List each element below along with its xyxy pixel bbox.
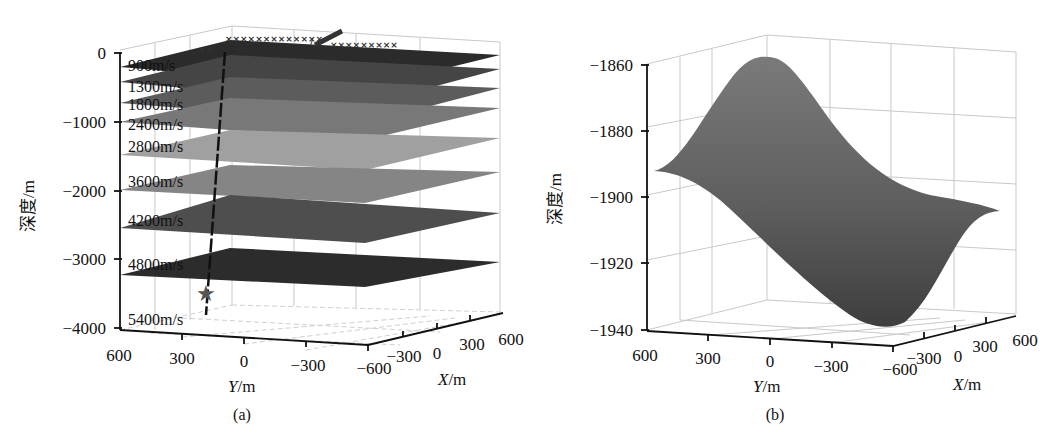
source-star-icon: ★ — [196, 281, 216, 306]
svg-text:600: 600 — [1012, 331, 1038, 350]
svg-text:5400m/s: 5400m/s — [128, 311, 183, 328]
svg-text:600: 600 — [632, 346, 658, 365]
panel-a-y-ticks: 600 300 0 −300 −600 — [106, 334, 391, 378]
svg-text:−300: −300 — [290, 356, 325, 375]
svg-text:−4000: −4000 — [62, 319, 106, 338]
svg-text:300: 300 — [972, 337, 998, 356]
svg-text:−300: −300 — [386, 347, 421, 366]
panel-a: ×× ××××××××××××× ××××××××× / ★ 0 −1000 −… — [19, 26, 524, 424]
svg-text:1800m/s: 1800m/s — [128, 96, 183, 113]
panel-a-x-ticks: −300 0 300 600 — [386, 315, 523, 366]
panel-b-z-ticks: −1860 −1880 −1900 −1920 −1940 — [589, 56, 649, 340]
svg-text:900m/s: 900m/s — [128, 57, 175, 74]
svg-text:2400m/s: 2400m/s — [128, 116, 183, 133]
panel-a-zlabel: 深度/m — [19, 180, 38, 232]
panel-a-z-ticks: 0 −1000 −2000 −3000 −4000 — [62, 44, 122, 338]
svg-text:−1880: −1880 — [589, 122, 633, 141]
svg-text:−1000: −1000 — [62, 113, 106, 132]
svg-text:−1940: −1940 — [589, 321, 633, 340]
svg-text:−300: −300 — [906, 349, 941, 368]
svg-text:××: ×× — [198, 45, 213, 55]
svg-text:300: 300 — [459, 335, 485, 354]
svg-text:−300: −300 — [813, 357, 848, 376]
svg-text:−3000: −3000 — [62, 250, 106, 269]
svg-text:−1900: −1900 — [589, 188, 633, 207]
svg-text:−1920: −1920 — [589, 254, 633, 273]
svg-text:0: 0 — [98, 44, 107, 63]
svg-text:×××××××××××××: ××××××××××××× — [225, 34, 323, 44]
depth-surface — [654, 57, 1000, 327]
svg-text:600: 600 — [106, 346, 132, 365]
panel-a-xlabel: X/m — [437, 370, 466, 389]
svg-text:300: 300 — [169, 349, 195, 368]
panel-a-ylabel: Y/m — [228, 377, 255, 396]
panel-b-xlabel: X/m — [952, 375, 981, 394]
svg-text:−2000: −2000 — [62, 182, 106, 201]
svg-text:0: 0 — [766, 352, 775, 371]
svg-text:−1860: −1860 — [589, 56, 633, 75]
svg-text:×××××××××: ××××××××× — [330, 40, 398, 50]
panel-b-caption: (b) — [766, 406, 785, 424]
svg-text:0: 0 — [954, 347, 963, 366]
svg-text:1300m/s: 1300m/s — [128, 78, 183, 95]
svg-text:4800m/s: 4800m/s — [128, 256, 183, 273]
panel-b: −1860 −1880 −1900 −1920 −1940 深度/m 600 3… — [546, 35, 1038, 424]
svg-text:0: 0 — [240, 352, 249, 371]
panel-b-ylabel: Y/m — [753, 377, 780, 396]
svg-text:3600m/s: 3600m/s — [128, 173, 183, 190]
svg-text:4200m/s: 4200m/s — [128, 212, 183, 229]
panel-b-zlabel: 深度/m — [546, 173, 565, 225]
svg-text:2800m/s: 2800m/s — [128, 138, 183, 155]
figure: ×× ××××××××××××× ××××××××× / ★ 0 −1000 −… — [0, 0, 1047, 445]
svg-text:600: 600 — [498, 330, 524, 349]
svg-text:300: 300 — [695, 349, 721, 368]
panel-b-y-ticks: 600 300 0 −300 −600 — [632, 335, 917, 379]
panel-a-caption: (a) — [233, 406, 251, 424]
svg-text:0: 0 — [433, 344, 442, 363]
